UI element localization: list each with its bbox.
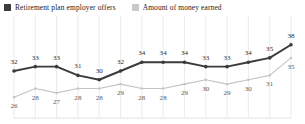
- chart-legend: Retirement plan employer offers Amount o…: [4, 1, 222, 14]
- data-label-retirement: 38: [287, 32, 294, 39]
- data-label-money: 29: [117, 90, 124, 97]
- data-label-money: 30: [202, 85, 209, 92]
- legend-label: Retirement plan employer offers: [15, 4, 116, 11]
- data-label-retirement: 34: [181, 50, 188, 57]
- legend-item-retirement-plan: Retirement plan employer offers: [4, 4, 116, 11]
- legend-label: Amount of money earned: [143, 4, 222, 11]
- data-label-money: 28: [32, 94, 39, 101]
- data-label-money: 27: [53, 98, 60, 105]
- data-label-money: 31: [266, 81, 273, 88]
- data-label-retirement: 34: [245, 50, 252, 57]
- data-label-money: 28: [96, 94, 103, 101]
- plot-area: 3233333130323434343333343538262827282829…: [0, 16, 305, 124]
- data-label-money: 30: [245, 85, 252, 92]
- data-label-retirement: 33: [32, 54, 39, 61]
- data-label-money: 28: [160, 94, 167, 101]
- data-label-retirement: 33: [53, 54, 60, 61]
- data-label-money: 29: [181, 90, 188, 97]
- data-label-retirement: 32: [10, 59, 17, 66]
- data-label-retirement: 34: [138, 50, 145, 57]
- line-chart: Retirement plan employer offers Amount o…: [0, 0, 305, 124]
- data-label-retirement: 33: [224, 54, 231, 61]
- data-label-retirement: 30: [96, 67, 103, 74]
- data-label-money: 26: [10, 103, 17, 110]
- square-swatch-icon: [4, 4, 11, 11]
- plot-svg: [0, 16, 305, 124]
- data-label-retirement: 35: [266, 45, 273, 52]
- square-swatch-icon: [132, 4, 139, 11]
- data-label-money: 28: [74, 94, 81, 101]
- data-label-money: 28: [138, 94, 145, 101]
- data-label-money: 35: [287, 63, 294, 70]
- legend-item-money-earned: Amount of money earned: [132, 4, 222, 11]
- data-label-retirement: 31: [74, 63, 81, 70]
- data-label-retirement: 33: [202, 54, 209, 61]
- data-label-retirement: 32: [117, 59, 124, 66]
- data-label-money: 29: [224, 90, 231, 97]
- data-label-retirement: 34: [160, 50, 167, 57]
